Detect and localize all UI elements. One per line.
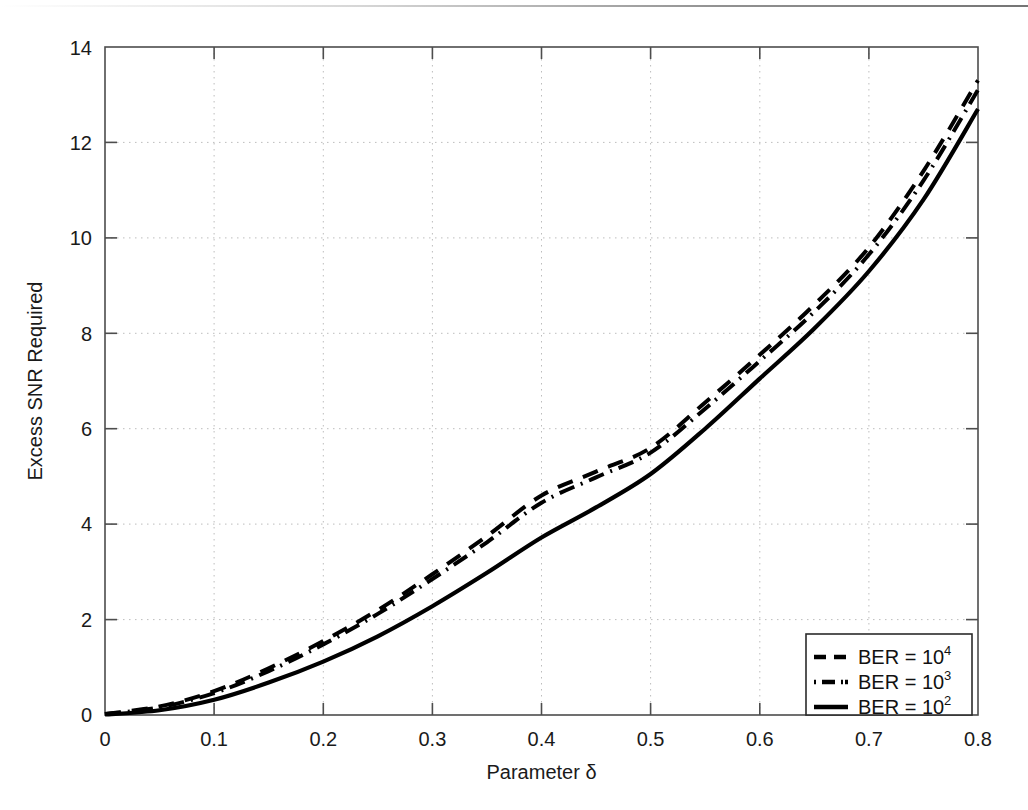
legend-label: BER = 10 [858, 671, 944, 693]
curve-ber-10-4 [105, 80, 978, 714]
y-tick-label: 6 [81, 418, 92, 440]
scan-artifact-line [0, 5, 1028, 7]
x-tick-labels: 0 0.1 0.2 0.3 0.4 0.5 0.6 0.7 0.8 [99, 728, 991, 750]
y-axis-title: Excess SNR Required [24, 282, 46, 481]
y-tick-label: 4 [81, 513, 92, 535]
x-tick-label: 0.1 [200, 728, 228, 750]
y-tick-label: 12 [70, 132, 92, 154]
y-tick-labels: 0 2 4 6 8 10 12 14 [70, 37, 92, 726]
x-tick-label: 0.7 [855, 728, 883, 750]
y-tick-label: 14 [70, 37, 92, 59]
x-tick-label: 0.8 [964, 728, 992, 750]
chart-svg: 0 2 4 6 8 10 12 14 0 0.1 0.2 0.3 0.4 0.5… [0, 0, 1028, 810]
legend-exponent: 3 [944, 668, 951, 683]
x-tick-label: 0.6 [746, 728, 774, 750]
y-tick-label: 10 [70, 227, 92, 249]
tick-marks [105, 47, 978, 715]
x-axis-title: Parameter δ [486, 761, 596, 783]
x-tick-label: 0.4 [528, 728, 556, 750]
legend-label: BER = 10 [858, 696, 944, 718]
x-tick-label: 0 [99, 728, 110, 750]
axes-frame [105, 47, 978, 715]
x-tick-label: 0.2 [309, 728, 337, 750]
x-tick-label: 0.5 [637, 728, 665, 750]
y-tick-label: 0 [81, 704, 92, 726]
legend-exponent: 2 [944, 693, 951, 708]
figure-container: 0 2 4 6 8 10 12 14 0 0.1 0.2 0.3 0.4 0.5… [0, 0, 1028, 810]
legend[interactable]: BER = 10 4 BER = 10 3 BER = 10 2 [806, 634, 972, 718]
grid-lines [105, 47, 978, 715]
y-tick-label: 2 [81, 609, 92, 631]
legend-label: BER = 10 [858, 646, 944, 668]
y-tick-label: 8 [81, 323, 92, 345]
legend-exponent: 4 [944, 643, 951, 658]
x-tick-label: 0.3 [418, 728, 446, 750]
data-curves [105, 80, 978, 714]
